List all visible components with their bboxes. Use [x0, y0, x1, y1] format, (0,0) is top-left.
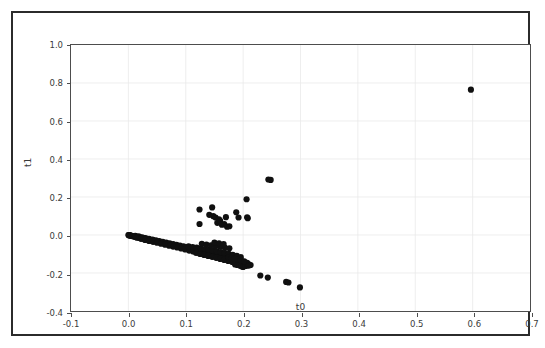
data-point: [223, 214, 229, 220]
y-tick-label: 0.8: [25, 78, 63, 88]
y-tick-label: -0.2: [25, 270, 63, 280]
plot-axes-area: -0.10.00.10.20.30.40.50.60.7 -0.4-0.20.0…: [70, 44, 531, 312]
data-point: [226, 223, 232, 229]
data-point: [231, 256, 237, 262]
y-tick-mark: [67, 160, 71, 161]
scatter-points-layer: [71, 45, 530, 311]
data-point: [257, 272, 263, 278]
data-point: [297, 284, 303, 290]
data-point: [265, 274, 271, 280]
data-point: [196, 206, 202, 212]
data-point: [196, 221, 202, 227]
data-point: [221, 241, 227, 247]
x-tick-label: 0.3: [295, 319, 309, 329]
y-tick-label: 0.0: [25, 231, 63, 241]
scatter-plot-figure: -0.10.00.10.20.30.40.50.60.7 -0.4-0.20.0…: [0, 0, 545, 348]
data-point: [209, 204, 215, 210]
x-tick-label: 0.5: [410, 319, 424, 329]
x-axis-label: t0: [70, 302, 531, 312]
data-point: [468, 87, 474, 93]
y-axis-label: t1: [23, 158, 33, 167]
data-point: [268, 177, 274, 183]
y-tick-mark: [67, 313, 71, 314]
x-tick-mark: [186, 313, 187, 317]
x-tick-mark: [129, 313, 130, 317]
x-tick-label: 0.6: [468, 319, 482, 329]
y-tick-mark: [67, 275, 71, 276]
x-tick-mark: [532, 313, 533, 317]
x-tick-label: 0.7: [525, 319, 539, 329]
y-tick-label: -0.4: [25, 308, 63, 318]
x-tick-mark: [417, 313, 418, 317]
x-tick-mark: [474, 313, 475, 317]
figure-frame-border: -0.10.00.10.20.30.40.50.60.7 -0.4-0.20.0…: [11, 11, 530, 336]
data-point: [245, 215, 251, 221]
x-tick-label: 0.4: [352, 319, 366, 329]
y-tick-mark: [67, 198, 71, 199]
data-point: [233, 209, 239, 215]
data-point: [241, 258, 247, 264]
x-tick-label: 0.1: [179, 319, 193, 329]
y-tick-label: 1.0: [25, 40, 63, 50]
data-point: [285, 279, 291, 285]
data-point: [226, 245, 232, 251]
data-point: [235, 214, 241, 220]
y-tick-mark: [67, 122, 71, 123]
x-tick-label: 0.2: [237, 319, 251, 329]
x-tick-mark: [359, 313, 360, 317]
x-tick-mark: [302, 313, 303, 317]
y-tick-mark: [67, 236, 71, 237]
data-point: [248, 262, 254, 268]
x-tick-mark: [244, 313, 245, 317]
y-tick-mark: [67, 45, 71, 46]
y-tick-label: 0.6: [25, 117, 63, 127]
x-tick-mark: [71, 313, 72, 317]
data-point: [243, 196, 249, 202]
x-tick-label: 0.0: [122, 319, 136, 329]
y-tick-mark: [67, 83, 71, 84]
x-tick-label: -0.1: [63, 319, 80, 329]
y-tick-label: 0.2: [25, 193, 63, 203]
